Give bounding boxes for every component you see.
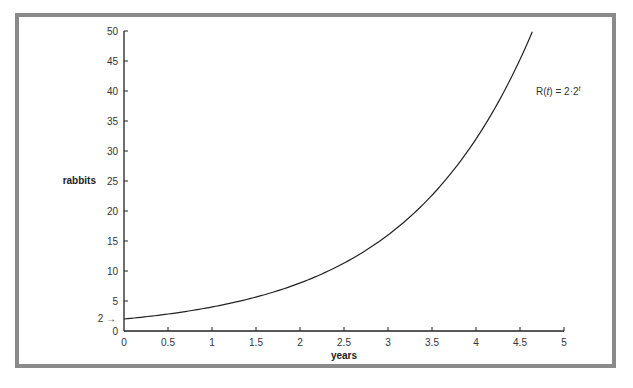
x-tick-label: 4.5	[513, 337, 527, 348]
curve-equation-label: R(t) = 2·2t	[536, 85, 582, 97]
x-tick-label: 1.5	[249, 337, 263, 348]
initial-value-marker: 2 →	[98, 313, 116, 324]
x-tick-label: 3	[385, 337, 391, 348]
x-tick-label: 4	[473, 337, 479, 348]
y-tick-label: 15	[107, 236, 119, 247]
x-tick-label: 0	[121, 337, 127, 348]
x-tick-label: 0.5	[161, 337, 175, 348]
x-tick-label: 1	[209, 337, 215, 348]
y-tick-label: 0	[112, 326, 118, 337]
y-tick-label: 40	[107, 86, 119, 97]
y-axis-label: rabbits	[63, 175, 97, 186]
y-tick-label: 5	[112, 296, 118, 307]
y-tick-label: 30	[107, 146, 119, 157]
x-tick-label: 3.5	[425, 337, 439, 348]
y-axis-ticks: 05101520253035404550	[107, 26, 128, 337]
y-tick-label: 35	[107, 116, 119, 127]
x-axis-ticks: 00.511.522.533.544.55	[121, 327, 567, 348]
y-tick-label: 20	[107, 206, 119, 217]
y-tick-label: 25	[107, 176, 119, 187]
exponential-curve	[124, 32, 532, 319]
x-tick-label: 2.5	[337, 337, 351, 348]
y-tick-label: 10	[107, 266, 119, 277]
x-tick-label: 5	[561, 337, 567, 348]
exponential-chart: 05101520253035404550 00.511.522.533.544.…	[0, 0, 633, 388]
y-tick-label: 45	[107, 56, 119, 67]
y-tick-label: 50	[107, 26, 119, 37]
x-axis-label: years	[331, 350, 358, 361]
x-tick-label: 2	[297, 337, 303, 348]
